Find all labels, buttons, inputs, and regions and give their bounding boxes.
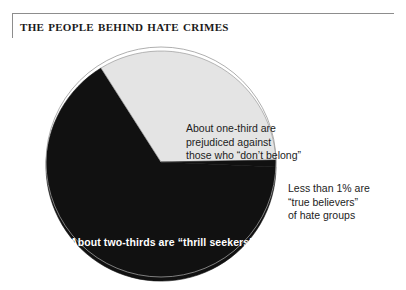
callout-thrill-seekers: About two-thirds are “thrill seekers” xyxy=(70,236,300,250)
title-rule-left xyxy=(12,13,13,38)
page-title: The People Behind Hate Crimes xyxy=(20,17,229,35)
pie-chart-svg xyxy=(0,40,406,290)
callout-prejudiced: About one-third are prejudiced against t… xyxy=(186,122,321,163)
infographic-page: The People Behind Hate Crimes About one-… xyxy=(0,0,406,290)
title-rule-top xyxy=(12,13,394,14)
pie-chart: About one-third are prejudiced against t… xyxy=(0,40,406,290)
callout-true-believers: Less than 1% are “true believers” of hat… xyxy=(288,182,400,223)
